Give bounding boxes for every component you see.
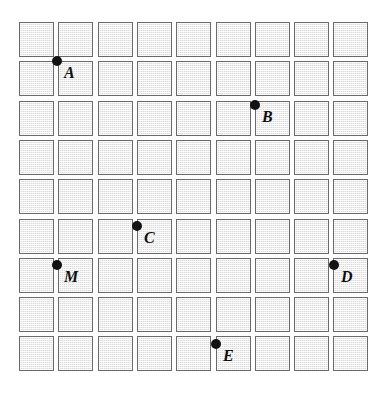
grid-cell <box>255 22 290 57</box>
grid-cell <box>294 297 329 332</box>
grid-cell <box>294 140 329 175</box>
grid-cell <box>19 140 54 175</box>
grid-cell <box>333 140 368 175</box>
point-label-c: C <box>144 230 155 246</box>
grid-cell <box>176 219 211 254</box>
grid-cell <box>176 101 211 136</box>
grid-cell <box>176 297 211 332</box>
grid-cell <box>294 179 329 214</box>
lattice-point-m <box>52 260 62 270</box>
grid-cell <box>176 258 211 293</box>
grid-cell <box>58 101 93 136</box>
grid-cell <box>137 179 172 214</box>
grid-cell <box>19 297 54 332</box>
grid-cell <box>176 61 211 96</box>
grid-cell <box>294 22 329 57</box>
grid-cell <box>294 219 329 254</box>
grid-cell <box>98 101 133 136</box>
grid-cell <box>216 101 251 136</box>
grid-cell <box>333 336 368 371</box>
grid-cell <box>294 258 329 293</box>
grid-cell <box>137 258 172 293</box>
grid-cell <box>176 140 211 175</box>
grid-cell <box>98 179 133 214</box>
grid-cell <box>333 219 368 254</box>
grid-cell <box>255 336 290 371</box>
lattice-point-b <box>250 100 260 110</box>
grid-cell <box>255 140 290 175</box>
grid-cell <box>333 297 368 332</box>
grid-cell <box>19 101 54 136</box>
point-label-m: M <box>64 269 78 285</box>
grid-cell <box>216 140 251 175</box>
point-label-b: B <box>262 109 273 125</box>
grid-cell <box>98 336 133 371</box>
grid-cell <box>98 297 133 332</box>
lattice-figure: ABCMDE <box>0 0 390 406</box>
grid-cell <box>255 297 290 332</box>
grid-cell <box>137 22 172 57</box>
grid-cell <box>255 179 290 214</box>
grid-cell <box>137 297 172 332</box>
grid-cell <box>333 179 368 214</box>
grid-cell <box>216 22 251 57</box>
grid-cell <box>19 258 54 293</box>
grid-cell <box>137 101 172 136</box>
grid-cell <box>216 179 251 214</box>
grid-cell <box>98 140 133 175</box>
grid-cell <box>216 219 251 254</box>
grid-cell <box>294 61 329 96</box>
lattice-point-e <box>211 339 221 349</box>
grid-cell <box>333 61 368 96</box>
grid-cell <box>216 258 251 293</box>
lattice-point-c <box>132 221 142 231</box>
grid-cell <box>176 22 211 57</box>
lattice-point-a <box>52 56 62 66</box>
grid-cell <box>19 22 54 57</box>
grid-cell <box>137 61 172 96</box>
grid-cell <box>98 22 133 57</box>
grid-cell <box>137 140 172 175</box>
grid-cell <box>333 22 368 57</box>
grid-cell <box>58 179 93 214</box>
point-label-d: D <box>341 269 353 285</box>
grid-cell <box>98 61 133 96</box>
grid-cell <box>333 101 368 136</box>
grid-cell <box>176 336 211 371</box>
grid-cell <box>216 61 251 96</box>
grid-cell <box>98 219 133 254</box>
grid-cell <box>176 179 211 214</box>
grid-cell <box>255 258 290 293</box>
grid-cell <box>19 219 54 254</box>
point-label-a: A <box>64 65 75 81</box>
grid-cell <box>58 336 93 371</box>
grid-cell <box>137 336 172 371</box>
grid-cell <box>294 336 329 371</box>
grid-cell <box>255 219 290 254</box>
grid-cell <box>294 101 329 136</box>
grid-cell <box>19 179 54 214</box>
grid-cell <box>58 22 93 57</box>
point-label-e: E <box>223 348 234 364</box>
lattice-point-d <box>329 260 339 270</box>
grid-cell <box>19 61 54 96</box>
grid-cell <box>58 297 93 332</box>
grid-cell <box>58 140 93 175</box>
grid-cell <box>58 219 93 254</box>
grid-cell <box>19 336 54 371</box>
grid-cell <box>216 297 251 332</box>
grid-cell <box>255 61 290 96</box>
grid-cell <box>98 258 133 293</box>
